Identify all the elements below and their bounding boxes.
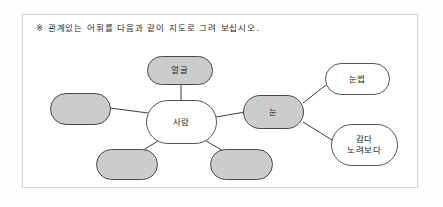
edge-eye-eyebrow bbox=[303, 85, 326, 103]
edge-center-eye bbox=[216, 112, 245, 117]
diagram-node-eyebrow[interactable]: 눈썹 bbox=[325, 63, 390, 95]
diagram-node-verbs-label: 감다 노려보다 bbox=[347, 134, 381, 156]
diagram-node-eyebrow-label: 눈썹 bbox=[349, 74, 366, 85]
diagram-node-center-person[interactable]: 사람 bbox=[146, 100, 217, 144]
worksheet-page: ※ 관계있는 어휘를 다음과 같이 지도로 그려 보십시오. 얼굴 사람 bbox=[0, 0, 443, 207]
edge-eye-verbs bbox=[303, 122, 332, 140]
diagram-node-bottom-left-blank[interactable] bbox=[96, 149, 158, 180]
diagram-node-face-label: 얼굴 bbox=[171, 65, 188, 76]
diagram-node-bottom-right-blank[interactable] bbox=[210, 149, 273, 180]
edge-center-left-blank bbox=[110, 108, 148, 113]
diagram-node-verbs[interactable]: 감다 노려보다 bbox=[331, 124, 398, 166]
diagram-node-eye[interactable]: 눈 bbox=[243, 95, 304, 129]
diagram-node-left-blank[interactable] bbox=[50, 93, 111, 125]
diagram-node-face[interactable]: 얼굴 bbox=[147, 56, 213, 85]
diagram-node-center-person-label: 사람 bbox=[173, 117, 190, 128]
diagram-node-eye-label: 눈 bbox=[269, 107, 278, 118]
